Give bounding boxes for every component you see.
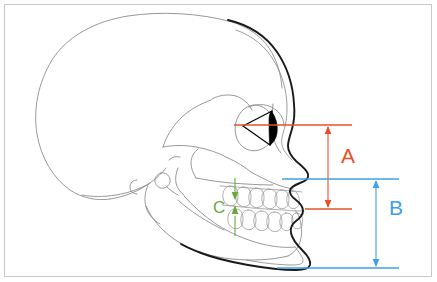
measurement-b-arrowhead-up — [373, 180, 380, 188]
anterior-cranial-fossa-path — [163, 100, 211, 147]
measurement-a-arrowhead-up — [325, 126, 332, 134]
eye-group — [243, 111, 277, 145]
eye-canthus-lower-line — [243, 126, 270, 145]
eye-canthus-upper-line — [243, 111, 272, 126]
skull-outline-group — [36, 13, 302, 260]
coronoid-process-path — [176, 168, 184, 195]
measurement-b-arrowhead-down — [373, 259, 380, 267]
measurement-a-label: A — [341, 144, 355, 167]
measurement-b-group — [277, 179, 399, 268]
posterior-maxilla-path — [191, 149, 198, 178]
measurement-b-label: B — [389, 196, 403, 219]
soft-tissue-profile-group — [181, 20, 310, 270]
maxilla-anterior-path — [251, 172, 293, 189]
measurement-a-arrowhead-down — [325, 200, 332, 208]
zygomatic-body-path — [228, 158, 251, 172]
cephalometric-figure: A B C — [0, 0, 437, 282]
condyle-path — [155, 173, 170, 188]
lip-inner-contour-path — [246, 247, 303, 265]
superior-orbital-rim-path — [249, 105, 284, 126]
sella-detail-path — [169, 157, 180, 160]
sigmoid-notch-path — [166, 186, 178, 195]
mandible-lingual-plate-path — [184, 196, 295, 247]
measurement-c-label: C — [213, 198, 225, 217]
cranial-vault-path — [36, 13, 232, 199]
soft-tissue-profile-path — [181, 20, 310, 270]
cephalometric-drawing: A B C — [0, 0, 437, 282]
